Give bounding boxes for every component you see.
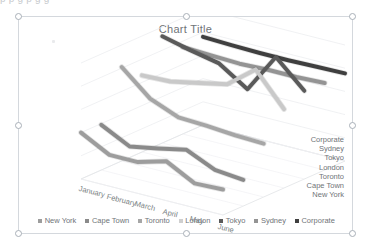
legend-item[interactable]: London [179,216,211,225]
resize-handle-bottom-center[interactable] [183,230,190,237]
legend-item-label: Sydney [261,216,286,225]
legend-item-label: Toronto [145,216,170,225]
category-axis-tick-label: January [78,184,106,199]
category-axis-tick-label: February [106,192,137,208]
legend-item-label: New York [45,216,77,225]
legend-swatch-icon [179,219,183,223]
legend-swatch-icon [219,219,223,223]
resize-handle-top-right[interactable] [349,13,356,20]
chart-object[interactable]: Chart Title 10,0008,0006,0004,0002,0000 … [18,16,353,234]
legend-swatch-icon [38,219,42,223]
category-axis[interactable]: JanuaryFebruaryMarchAprilMayJune [19,17,354,235]
legend-item[interactable]: New York [38,216,76,225]
legend-item[interactable]: Cape Town [85,216,129,225]
chart-legend[interactable]: New YorkCape TownTorontoLondonTokyoSydne… [19,216,354,225]
series-axis-tick-label: Toronto [258,172,344,181]
legend-swatch-icon [85,219,89,223]
document-text-line: p p g p g g [0,0,369,5]
series-axis-tick-label: Sydney [258,144,344,153]
legend-item[interactable]: Sydney [254,216,286,225]
legend-item[interactable]: Toronto [138,216,170,225]
series-axis-tick-label: New York [258,190,344,199]
legend-item-label: Tokyo [226,216,246,225]
resize-handle-middle-left[interactable] [15,122,22,129]
series-axis[interactable]: CorporateSydneyTokyoLondonTorontoCape To… [258,135,344,199]
legend-swatch-icon [295,219,299,223]
resize-handle-middle-right[interactable] [349,122,356,129]
legend-item[interactable]: Tokyo [219,216,245,225]
series-axis-tick-label: London [258,163,344,172]
resize-handle-bottom-left[interactable] [15,230,22,237]
category-axis-tick-label: March [134,199,156,213]
resize-handle-bottom-right[interactable] [349,230,356,237]
legend-item[interactable]: Corporate [295,216,335,225]
legend-item-label: Cape Town [92,216,129,225]
series-axis-tick-label: Cape Town [258,181,344,190]
legend-item-label: London [185,216,210,225]
legend-swatch-icon [254,219,258,223]
legend-swatch-icon [138,219,142,223]
resize-handle-top-center[interactable] [183,13,190,20]
resize-handle-top-left[interactable] [15,13,22,20]
series-axis-tick-label: Corporate [258,135,344,144]
legend-item-label: Corporate [301,216,334,225]
series-axis-tick-label: Tokyo [258,153,344,162]
